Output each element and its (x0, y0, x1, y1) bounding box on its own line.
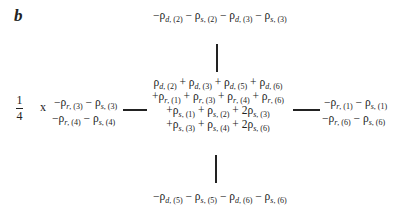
center-node: ρd, (2) + ρd, (3) + ρd, (5) + ρd, (6) +ρ… (152, 75, 284, 131)
connector-top (216, 44, 218, 72)
left-node: −ρr, (3) − ρs, (3) −ρr, (4) − ρs, (4) (52, 94, 117, 126)
bottom-node: −ρd, (5) − ρs, (5) − ρd, (6) − ρs, (6) (153, 189, 287, 203)
right-line: −ρr, (1) − ρs, (1) (322, 94, 387, 110)
panel-label: b (14, 6, 23, 26)
left-line: −ρr, (4) − ρs, (4) (52, 110, 117, 126)
center-line: +ρs, (1) + ρs, (2) + 2ρs, (3) (152, 103, 284, 117)
multiply-symbol: x (40, 100, 46, 115)
connector-right (293, 109, 320, 111)
fraction-numerator: 1 (17, 93, 23, 107)
top-node: −ρd, (2) − ρs, (2) − ρd, (3) − ρs, (3) (153, 8, 287, 22)
connector-left (123, 109, 147, 111)
center-line: ρd, (2) + ρd, (3) + ρd, (5) + ρd, (6) (152, 75, 284, 89)
right-line: −ρr, (6) − ρs, (6) (322, 110, 387, 126)
center-line: +ρs, (3) + ρs, (4) + 2ρs, (6) (152, 117, 284, 131)
left-line: −ρr, (3) − ρs, (3) (52, 94, 117, 110)
right-node: −ρr, (1) − ρs, (1) −ρr, (6) − ρs, (6) (322, 94, 387, 126)
prefactor-fraction: 1 4 (16, 94, 23, 123)
fraction-denominator: 4 (17, 109, 23, 123)
connector-bottom (215, 155, 217, 183)
center-line: +ρr, (1) + ρr, (3) + ρr, (4) + ρr, (6) (152, 89, 284, 103)
